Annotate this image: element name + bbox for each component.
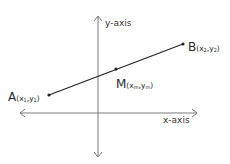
point-a-dot xyxy=(47,93,50,96)
point-b-label: B(x2,y2) xyxy=(188,38,220,54)
point-a-label: A(x1,y1) xyxy=(8,88,40,104)
point-b-dot xyxy=(181,42,184,45)
midpoint-diagram: y-axis x-axis A(x1,y1) B(x2,y2) M(xm,ym) xyxy=(0,0,230,164)
y-axis-line xyxy=(94,16,102,157)
point-m-dot xyxy=(114,67,117,70)
point-m-label: M(xm,ym) xyxy=(116,75,153,91)
x-axis-label: x-axis xyxy=(163,116,190,125)
y-axis-label: y-axis xyxy=(105,19,131,28)
